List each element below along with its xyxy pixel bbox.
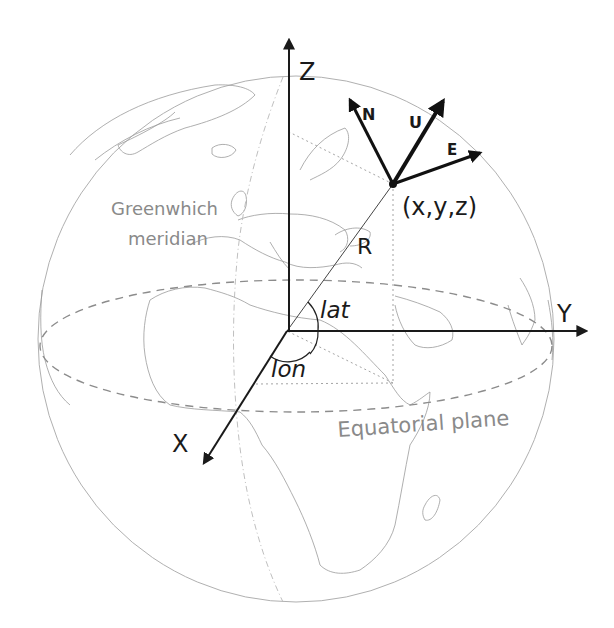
point-label: (x,y,z) [402, 193, 477, 221]
earth-coordinate-diagram: Z Y X N U E (x,y,z) R lat lon Greenwhich… [0, 0, 614, 628]
y-axis-label: Y [556, 300, 572, 328]
foot-to-x-axis [255, 383, 393, 384]
point-to-z-axis [289, 132, 393, 184]
latitude-arc [308, 302, 318, 354]
coastlines [41, 85, 553, 573]
equatorial-plane-label: Equatorial plane [337, 406, 510, 442]
x-axis-label: X [172, 430, 188, 458]
greenwich-meridian-line [234, 77, 284, 602]
projection-lines [255, 132, 393, 384]
east-vector [393, 153, 480, 184]
north-label: N [362, 105, 375, 124]
x-axis [204, 331, 287, 463]
latitude-label: lat [320, 297, 350, 323]
longitude-label: lon [271, 356, 306, 382]
radius-label: R [357, 234, 372, 259]
equatorial-plane-ellipse [40, 280, 552, 412]
greenwich-label-line2: meridian [128, 228, 208, 249]
z-axis-label: Z [299, 58, 315, 86]
ecef-axes [204, 40, 586, 463]
up-label: U [409, 113, 422, 132]
greenwich-label-line1: Greenwhich [111, 198, 218, 219]
point-marker [389, 180, 397, 188]
east-label: E [447, 141, 457, 159]
